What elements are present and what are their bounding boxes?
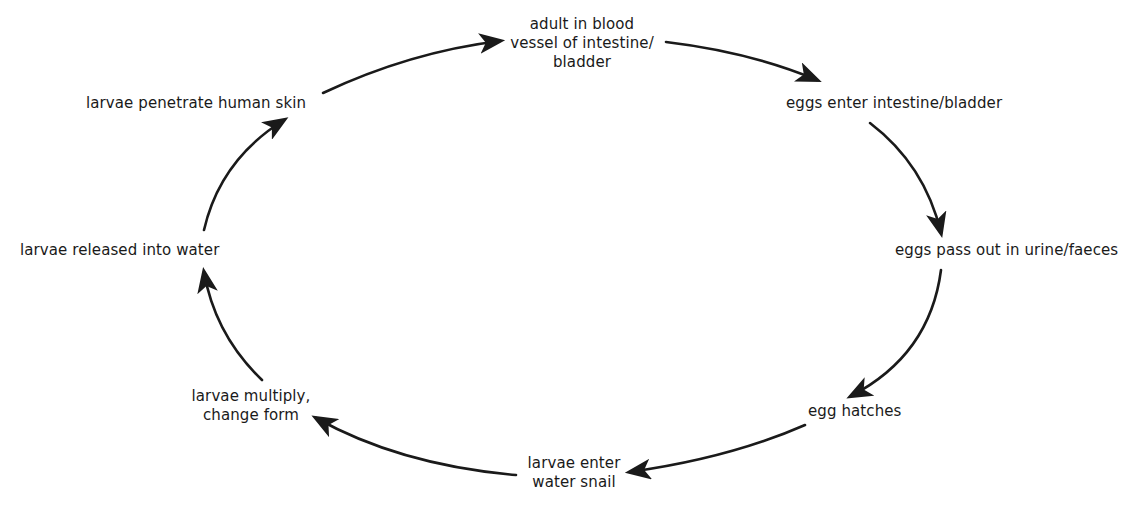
arrow-hatches-to-snail	[630, 425, 805, 472]
node-label-line: larvae released into water	[20, 241, 219, 260]
node-label-line: change form	[186, 406, 316, 425]
node-label-line: bladder	[497, 53, 667, 72]
node-larvae-multiply: larvae multiply, change form	[186, 387, 316, 425]
arrow-adult-to-eggs-enter	[666, 42, 817, 80]
node-label-line: eggs enter intestine/bladder	[786, 94, 1002, 113]
node-eggs-pass-out: eggs pass out in urine/faeces	[895, 241, 1118, 260]
node-label-line: larvae enter	[512, 454, 636, 473]
node-larvae-penetrate-skin: larvae penetrate human skin	[86, 94, 306, 113]
node-label-line: egg hatches	[808, 402, 902, 421]
node-label-line: eggs pass out in urine/faeces	[895, 241, 1118, 260]
node-label-line: adult in blood	[497, 15, 667, 34]
node-label-line: vessel of intestine/	[497, 34, 667, 53]
node-label-line: water snail	[512, 473, 636, 492]
life-cycle-diagram: adult in blood vessel of intestine/ blad…	[0, 0, 1141, 510]
arrow-penetrate-to-adult	[323, 41, 500, 93]
arrow-eggs-pass-to-hatches	[851, 270, 941, 396]
arrow-snail-to-multiply	[316, 418, 516, 475]
node-label-line: larvae multiply,	[186, 387, 316, 406]
node-larvae-released: larvae released into water	[20, 241, 219, 260]
node-eggs-enter: eggs enter intestine/bladder	[786, 94, 1002, 113]
arrow-eggs-enter-to-eggs-pass	[870, 123, 941, 233]
arrow-multiply-to-released	[204, 272, 262, 380]
arrow-released-to-penetrate	[204, 120, 284, 230]
node-egg-hatches: egg hatches	[808, 402, 902, 421]
node-larvae-enter-snail: larvae enter water snail	[512, 454, 636, 492]
node-adult-in-blood-vessel: adult in blood vessel of intestine/ blad…	[497, 15, 667, 72]
node-label-line: larvae penetrate human skin	[86, 94, 306, 113]
